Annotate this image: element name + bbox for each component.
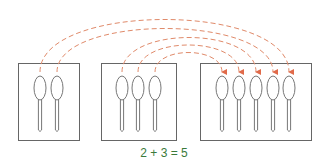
spoon-icon xyxy=(116,76,128,132)
spoon-icon xyxy=(233,76,245,132)
spoon-icon xyxy=(283,76,295,132)
arrow-arc xyxy=(122,38,256,73)
spoon-icon xyxy=(51,76,63,132)
spoon-icon xyxy=(34,76,46,132)
arrow-arc xyxy=(57,29,273,73)
spoon-icon xyxy=(216,76,228,132)
spoon-icon xyxy=(250,76,262,132)
diagram-canvas xyxy=(0,0,328,167)
box-group-b xyxy=(102,64,177,141)
spoon-icon xyxy=(132,76,144,132)
arrow-arc xyxy=(138,45,239,72)
arrow-arc xyxy=(155,53,222,73)
spoon-icon xyxy=(149,76,161,132)
spoon-icon xyxy=(267,76,279,132)
equation-label: 2 + 3 = 5 xyxy=(0,146,328,160)
box-group-a xyxy=(19,64,80,141)
box-group-total xyxy=(201,64,312,141)
